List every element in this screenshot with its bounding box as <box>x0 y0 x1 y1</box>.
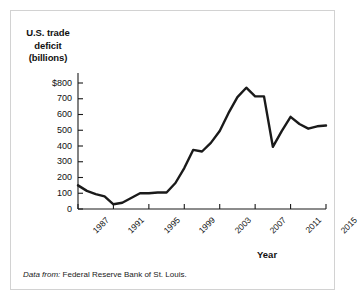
line-chart <box>11 11 336 291</box>
y-tick-label: 0 <box>32 205 72 214</box>
y-tick-label: 700 <box>32 94 72 103</box>
y-tick-label: 500 <box>32 126 72 135</box>
y-tick-label: 300 <box>32 157 72 166</box>
y-tick-label: 600 <box>32 110 72 119</box>
source-lead: Data from: <box>23 270 60 279</box>
y-tick-label: 200 <box>32 173 72 182</box>
y-tick-label: $800 <box>32 79 72 88</box>
source-text: Federal Reserve Bank of St. Louis. <box>63 270 187 279</box>
chart-axes <box>78 73 326 209</box>
x-tick-label: 2015 <box>339 215 359 235</box>
source-note: Data from: Federal Reserve Bank of St. L… <box>23 270 187 279</box>
plot-area <box>11 11 336 291</box>
y-tick-label: 400 <box>32 142 72 151</box>
chart-ticks <box>78 83 326 209</box>
y-tick-label: 100 <box>32 189 72 198</box>
trade-deficit-line <box>78 88 326 205</box>
x-axis-title: Year <box>257 249 277 260</box>
figure-frame: U.S. trade deficit (billions) $800700600… <box>10 10 335 290</box>
